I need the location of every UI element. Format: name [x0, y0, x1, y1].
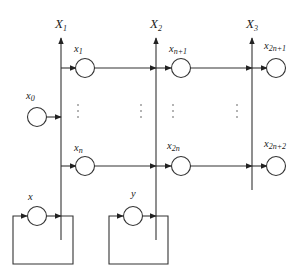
neural-architecture-diagram: X1 X2 X3 x1 xn+1 x2n+1 xn x2n x2n+2 x0 x…	[0, 0, 304, 279]
label-x2n2: x2n+2	[263, 138, 286, 151]
ellipsis-dots-col3	[172, 104, 174, 118]
bus-x2-label: X2	[149, 16, 162, 33]
label-x: x	[27, 191, 33, 202]
node-x	[28, 207, 47, 226]
node-x0	[28, 108, 47, 127]
label-y: y	[130, 188, 136, 199]
label-x0: x0	[25, 90, 35, 103]
node-x2n	[172, 157, 191, 176]
label-xn: xn	[73, 142, 83, 155]
node-y	[124, 207, 143, 226]
label-x2n1: x2n+1	[263, 40, 286, 53]
node-x2n2	[267, 157, 286, 176]
ellipsis-dots-col2	[140, 104, 142, 118]
node-xn	[76, 157, 95, 176]
node-x2n1	[267, 59, 286, 78]
ellipsis-dots-col4	[236, 104, 238, 118]
bus-x1-label: X1	[54, 16, 67, 33]
bus-x3-label: X3	[245, 16, 258, 33]
label-x1: x1	[73, 43, 83, 56]
label-x2n: x2n	[166, 140, 180, 153]
node-xn1	[172, 59, 191, 78]
node-x1	[76, 59, 95, 78]
label-xn1: xn+1	[168, 43, 187, 56]
ellipsis-dots-col1	[77, 104, 79, 118]
